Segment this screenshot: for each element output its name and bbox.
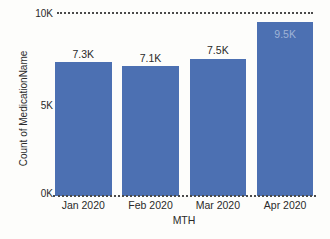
bar-apr-2020 [257, 22, 314, 196]
bar-mar-2020 [190, 59, 247, 196]
value-label-mar-2020: 7.5K [193, 44, 243, 56]
plot-area: 7.3KJan 20207.1KFeb 20207.5KMar 20209.5K… [0, 0, 330, 239]
x-tick-feb-2020: Feb 2020 [118, 199, 184, 211]
bar-chart: Count of MedicationName 10K 5K 0K 7.3KJa… [0, 0, 330, 239]
x-tick-mar-2020: Mar 2020 [185, 199, 251, 211]
x-tick-jan-2020: Jan 2020 [50, 199, 116, 211]
x-tick-apr-2020: Apr 2020 [252, 199, 318, 211]
value-label-jan-2020: 7.3K [58, 48, 108, 60]
value-label-feb-2020: 7.1K [126, 52, 176, 64]
value-label-apr-2020: 9.5K [260, 28, 310, 40]
gridline-0k [53, 195, 316, 197]
bar-jan-2020 [55, 62, 112, 196]
bar-feb-2020 [122, 66, 179, 196]
